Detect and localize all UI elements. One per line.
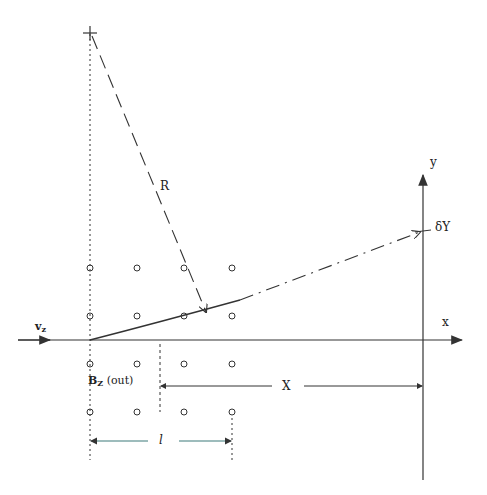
center-of-curvature-cross — [83, 26, 97, 40]
magnetic-deflection-diagram: R y x δY vz BZ (out) X l — [0, 0, 487, 495]
radius-label: R — [160, 179, 170, 193]
distance-label: X — [282, 379, 291, 393]
y-axis-label: y — [429, 155, 437, 169]
field-label: BZ (out) — [88, 374, 133, 388]
velocity-label: vz — [34, 320, 46, 334]
radius-line — [92, 36, 206, 312]
deflection-label: δY — [435, 220, 451, 234]
trajectory-arc — [90, 300, 240, 340]
x-axis-label: x — [442, 315, 449, 329]
extrapolated-path — [240, 232, 420, 300]
length-label: l — [159, 433, 163, 447]
